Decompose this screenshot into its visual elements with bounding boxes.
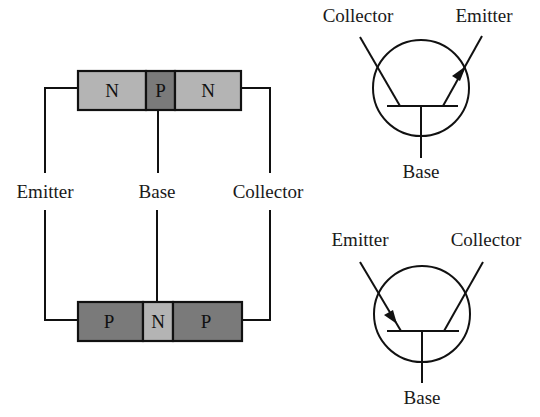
base-label: Base <box>139 181 176 202</box>
npn-symbol-collector-label: Collector <box>323 5 394 26</box>
pnp-symbol-collector-label: Collector <box>451 229 522 250</box>
arrow-in-icon <box>384 310 397 324</box>
npn-emitter-lead <box>45 88 78 173</box>
transistor-diagram: N P N Emitter Base Collector P N P Colle… <box>0 0 540 417</box>
pnp-structure: P N P <box>45 210 270 341</box>
pnp-symbol: Emitter Collector Base <box>332 229 523 408</box>
npn-collector-lead <box>241 88 270 173</box>
emitter-label: Emitter <box>17 181 75 202</box>
pnp-segment-label: N <box>151 311 165 332</box>
pnp-collector-line <box>444 262 483 331</box>
npn-segment-label: N <box>201 80 215 101</box>
pnp-segment-label: P <box>104 311 115 332</box>
collector-label: Collector <box>233 181 304 202</box>
pnp-collector-lead <box>242 210 270 320</box>
pnp-emitter-lead <box>45 210 78 320</box>
npn-symbol-emitter-label: Emitter <box>456 5 514 26</box>
arrow-out-icon <box>452 66 466 81</box>
npn-segment-label: P <box>155 80 166 101</box>
npn-structure: N P N <box>45 71 270 173</box>
npn-symbol: Collector Emitter Base <box>323 5 514 182</box>
pnp-symbol-emitter-label: Emitter <box>332 229 390 250</box>
npn-symbol-base-label: Base <box>403 161 440 182</box>
pnp-symbol-base-label: Base <box>404 387 441 408</box>
npn-segment-label: N <box>105 80 119 101</box>
pnp-segment-label: P <box>201 311 212 332</box>
